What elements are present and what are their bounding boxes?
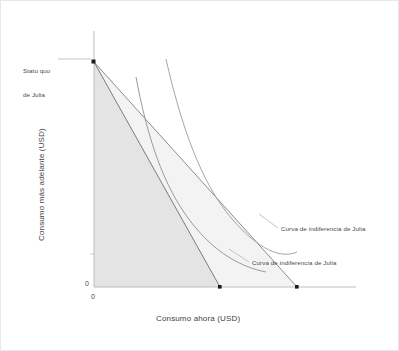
- curve-label-lower: Curva de indiferencia de Julia: [252, 259, 337, 267]
- status-quo-label-line2: de Julia: [23, 91, 50, 99]
- curve-label-upper: Curva de indiferencia de Julia: [281, 225, 366, 233]
- y-axis-origin-label: 0: [85, 280, 89, 287]
- budget-line-flat-intercept-marker: [295, 285, 299, 289]
- y-axis-title: Consumo más adelante (USD): [37, 128, 46, 241]
- x-axis-title: Consumo ahora (USD): [156, 314, 240, 323]
- budget-line-steep-intercept-marker: [218, 285, 222, 289]
- diagram-canvas: [1, 1, 399, 351]
- status-quo-label-line1: Statu quo: [23, 67, 50, 75]
- figure-frame: Statu quo de Julia Curva de indiferencia…: [0, 0, 399, 351]
- status-quo-label: Statu quo de Julia: [23, 51, 50, 115]
- x-axis-origin-label: 0: [91, 293, 95, 300]
- status-quo-marker: [92, 60, 96, 64]
- curve-label-upper-leader-line: [259, 214, 278, 228]
